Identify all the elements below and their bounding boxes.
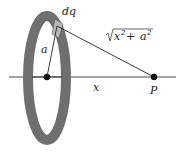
point-p bbox=[151, 74, 157, 80]
ring-diagram: dq a x P x 2 + a 2 bbox=[0, 0, 184, 155]
distance-a-exp: 2 bbox=[146, 29, 152, 37]
x-label: x bbox=[93, 81, 100, 94]
distance-plus: + bbox=[126, 30, 135, 43]
radius-a-label: a bbox=[41, 43, 48, 56]
p-label: P bbox=[149, 84, 158, 97]
ring-center-point bbox=[44, 74, 50, 80]
distance-label: x 2 + a 2 bbox=[106, 29, 153, 43]
dq-label: dq bbox=[62, 5, 76, 18]
distance-a: a bbox=[140, 30, 147, 43]
distance-x: x bbox=[114, 30, 121, 43]
